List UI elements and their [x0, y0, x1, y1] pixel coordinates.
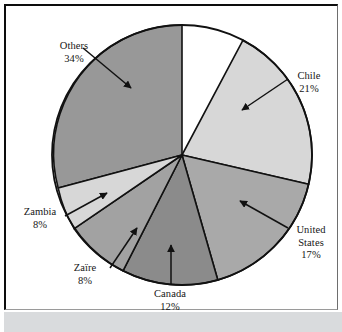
pie-chart: Others 34% Chile 21% United States 17% C… — [0, 0, 342, 312]
pie-label-united-states: United States 17% — [282, 224, 340, 262]
pie-label-zambia-value: 8% — [11, 219, 69, 232]
pie-label-zaire-value: 8% — [59, 275, 111, 288]
pie-label-others-name: Others — [44, 40, 104, 53]
bottom-band — [4, 312, 342, 332]
pie-label-canada-name: Canada — [139, 288, 201, 301]
pie-label-chile-name: Chile — [283, 70, 335, 83]
pie-label-zaire: Zaïre 8% — [59, 262, 111, 287]
pie-label-others: Others 34% — [44, 40, 104, 65]
pie-label-zambia-name: Zambia — [11, 206, 69, 219]
pie-label-canada: Canada 12% — [139, 288, 201, 313]
pie-label-chile: Chile 21% — [283, 70, 335, 95]
pie-label-chile-value: 21% — [283, 83, 335, 96]
pie-label-others-value: 34% — [44, 53, 104, 66]
pie-label-united-states-name-line1: United — [282, 224, 340, 237]
chart-page: Others 34% Chile 21% United States 17% C… — [0, 0, 342, 332]
pie-label-zaire-name: Zaïre — [59, 262, 111, 275]
pie-label-zambia: Zambia 8% — [11, 206, 69, 231]
pie-label-united-states-value: 17% — [282, 249, 340, 262]
pie-label-united-states-name-line2: States — [282, 237, 340, 250]
